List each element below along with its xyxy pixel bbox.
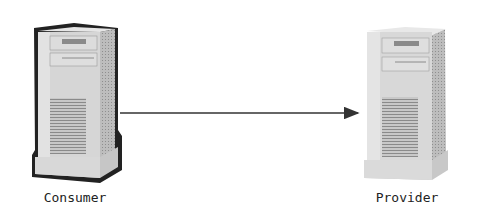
diagram-canvas (0, 0, 480, 217)
consumer-label: Consumer (30, 190, 120, 205)
consumer-server-icon[interactable] (32, 23, 122, 183)
provider-label: Provider (362, 190, 452, 205)
provider-server-icon[interactable] (364, 27, 448, 180)
